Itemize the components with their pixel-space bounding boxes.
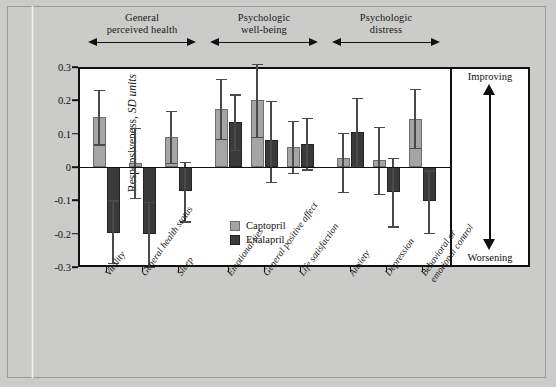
error-bar-cap-upper [302, 118, 313, 119]
y-axis-title: Responsiveness, SD units [126, 33, 138, 233]
y-tick-mark [72, 266, 78, 268]
group-span-arrow [88, 37, 196, 48]
error-bar-cap-upper [180, 162, 191, 163]
error-bar [414, 89, 415, 148]
y-tick-label: 0.1 [15, 128, 78, 139]
group-span-arrow [332, 37, 440, 48]
error-bar-cap-lower [252, 137, 263, 138]
error-bar [256, 64, 257, 137]
figure-container: General perceived healthPsychologic well… [0, 0, 556, 387]
error-bar-cap-lower [424, 233, 435, 234]
error-bar [270, 101, 271, 182]
arrow-shaft [218, 42, 310, 43]
y-tick-mark [72, 133, 78, 135]
y-tick-label: -0.3 [15, 262, 78, 273]
arrow-right-icon [187, 38, 196, 46]
arrow-shaft [96, 42, 188, 43]
arrow-right-icon [309, 38, 318, 46]
error-bar-cap-upper [424, 170, 435, 171]
group-header: Psychologic well-being [210, 12, 318, 48]
error-bar [98, 90, 99, 145]
group-span-arrow [210, 37, 318, 48]
error-bar-cap-lower [410, 148, 421, 149]
y-axis-title-italic: SD units [126, 74, 138, 113]
error-bar-cap-upper [338, 133, 349, 134]
error-bar-cap-upper [352, 98, 363, 99]
error-bar-cap-lower [338, 192, 349, 193]
zero-baseline [78, 167, 450, 168]
group-header: General perceived health [88, 12, 196, 48]
error-bar [342, 133, 343, 192]
error-bar-cap-upper [230, 94, 241, 95]
error-bar [306, 118, 307, 170]
y-tick-mark [72, 66, 78, 68]
error-bar-cap-upper [252, 64, 263, 65]
error-bar-cap-upper [410, 89, 421, 90]
error-bar-cap-upper [166, 111, 177, 112]
legend-swatch-enalapril [230, 235, 240, 245]
error-bar [428, 170, 429, 233]
error-bar-cap-upper [288, 121, 299, 122]
error-bar-cap-lower [130, 198, 141, 199]
arrow-down-icon [483, 239, 495, 250]
error-bar-cap-lower [266, 182, 277, 183]
y-axis-title-main: Responsiveness, [126, 113, 138, 192]
error-bar-cap-upper [130, 128, 141, 129]
x-axis-category-labels: VitalityGeneral health statusSleepEmotio… [0, 272, 556, 387]
error-bar-cap-upper [388, 158, 399, 159]
error-bar [134, 128, 135, 198]
y-tick-mark [72, 233, 78, 235]
group-header-title: Psychologic distress [332, 12, 440, 35]
group-header-title: Psychologic well-being [210, 12, 318, 35]
y-tick-label: 0.2 [15, 95, 78, 106]
error-bar [356, 98, 357, 167]
error-bar [170, 111, 171, 163]
error-bar-cap-upper [374, 127, 385, 128]
error-bar-cap-upper [108, 200, 119, 201]
group-header-band: General perceived healthPsychologic well… [0, 12, 556, 60]
error-bar-cap-upper [266, 101, 277, 102]
error-bar-cap-upper [144, 202, 155, 203]
error-bar-cap-lower [166, 163, 177, 164]
y-tick-label: -0.1 [15, 195, 78, 206]
arrow-right-icon [431, 38, 440, 46]
error-bar [234, 94, 235, 149]
legend-label-captopril: Captopril [246, 220, 286, 231]
plot-area: Responsiveness, SD units 0.30.20.10-0.1-… [78, 67, 450, 267]
error-bar-cap-upper [94, 90, 105, 91]
direction-arrow-shaft [489, 91, 491, 243]
direction-label-worsening: Worsening [452, 252, 528, 263]
error-bar-cap-lower [94, 144, 105, 145]
group-header-title: General perceived health [88, 12, 196, 35]
error-bar-cap-lower [388, 226, 399, 227]
error-bar-cap-upper [216, 79, 227, 80]
error-bar [292, 121, 293, 173]
error-bar-cap-lower [374, 194, 385, 195]
arrow-shaft [340, 42, 432, 43]
error-bar [220, 79, 221, 139]
legend-swatch-captopril [230, 221, 240, 231]
y-tick-mark [72, 100, 78, 102]
group-header: Psychologic distress [332, 12, 440, 48]
error-bar-cap-lower [230, 150, 241, 151]
direction-label-improving: Improving [452, 71, 528, 82]
error-bar [378, 127, 379, 194]
error-bar-cap-lower [216, 139, 227, 140]
y-tick-label: -0.2 [15, 228, 78, 239]
y-tick-label: 0 [15, 162, 78, 173]
y-tick-mark [72, 200, 78, 202]
y-tick-label: 0.3 [15, 62, 78, 73]
error-bar-cap-lower [302, 169, 313, 170]
error-bar-cap-lower [288, 173, 299, 174]
